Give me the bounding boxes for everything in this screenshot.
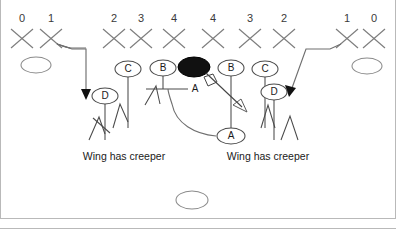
- player-a-back-label: A: [228, 130, 235, 141]
- player-c-right-label: C: [261, 63, 268, 74]
- gap-number-3-left: 3: [138, 12, 144, 24]
- defender-x-2-right: [273, 29, 295, 48]
- defender-x-row: [11, 29, 385, 48]
- center-ball: [178, 57, 210, 77]
- player-c-left-legs: [113, 104, 128, 128]
- defender-x-4-right: [202, 29, 224, 48]
- player-c-right-legs: [261, 105, 275, 128]
- note-left: Wing has creeper: [83, 150, 166, 162]
- defender-x-3-right: [239, 29, 261, 48]
- player-b-right-label: B: [228, 62, 235, 73]
- motion-path-right: [285, 44, 341, 97]
- center-ball-label: A: [192, 83, 199, 94]
- gap-number-0-left: 0: [19, 12, 25, 24]
- player-d-right-legs: [281, 116, 298, 140]
- gap-number-1-right: 1: [344, 12, 350, 24]
- back-oval-deep: [176, 191, 208, 209]
- player-d-left-group: D: [89, 88, 118, 140]
- center-connector-box: [204, 74, 217, 86]
- player-a-route: [168, 89, 216, 136]
- gap-number-4-left: 4: [171, 12, 177, 24]
- player-b-left-label: B: [160, 62, 167, 73]
- player-d-right-label: D: [270, 86, 277, 97]
- defender-x-0-right: [363, 29, 385, 48]
- player-b-right-group: B: [206, 60, 247, 128]
- gap-number-2-right: 2: [281, 12, 287, 24]
- play-diagram-canvas: 0 1 2 3 4 4 3 2 1 0: [0, 0, 396, 230]
- player-c-left-label: C: [124, 63, 131, 74]
- center-ball-group: A: [178, 57, 217, 94]
- gap-number-4-right: 4: [210, 12, 216, 24]
- defender-x-4-left: [163, 29, 185, 48]
- motion-path-left: [57, 44, 91, 100]
- player-a-back-group: A: [168, 89, 245, 144]
- gap-number-3-right: 3: [247, 12, 253, 24]
- note-right: Wing has creeper: [227, 150, 310, 162]
- defender-x-0-left: [11, 29, 33, 48]
- defender-x-3-left: [130, 29, 152, 48]
- gap-number-row: 0 1 2 3 4 4 3 2 1 0: [19, 12, 377, 24]
- back-oval-left: [21, 57, 51, 73]
- arrowhead-left-motion: [81, 89, 91, 100]
- gap-number-1-left: 1: [48, 12, 54, 24]
- gap-number-2-left: 2: [111, 12, 117, 24]
- play-diagram-svg: 0 1 2 3 4 4 3 2 1 0: [0, 0, 396, 230]
- player-d-left-label: D: [101, 90, 108, 101]
- defender-x-2-left: [103, 29, 125, 48]
- player-d-left-legs: [89, 117, 105, 140]
- diagram-frame: [0, 0, 396, 229]
- back-oval-right: [352, 58, 382, 74]
- gap-number-0-right: 0: [371, 12, 377, 24]
